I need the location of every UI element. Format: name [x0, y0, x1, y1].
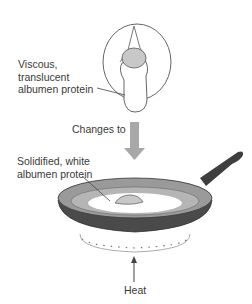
- yolk: [122, 48, 146, 68]
- label-cooked-albumen: Solidified, white albumen protein: [17, 155, 92, 180]
- heat-arrow-icon: [131, 256, 137, 282]
- burner-ring-illustration: [80, 234, 190, 252]
- diagram-canvas: [0, 0, 252, 304]
- label-changes-to: Changes to: [72, 123, 126, 136]
- label-cooked-line-1: Solidified, white: [17, 155, 92, 168]
- label-cooked-line-2: albumen protein: [17, 168, 92, 181]
- pan-handle: [200, 151, 243, 186]
- cracked-egg-illustration: [97, 24, 171, 112]
- label-raw-line-3: albumen protein: [18, 83, 93, 96]
- down-arrow-icon: [124, 122, 145, 160]
- label-raw-line-2: translucent: [18, 71, 93, 84]
- label-heat: Heat: [124, 284, 146, 297]
- label-raw-albumen: Viscous, translucent albumen protein: [18, 58, 93, 96]
- label-raw-line-1: Viscous,: [18, 58, 93, 71]
